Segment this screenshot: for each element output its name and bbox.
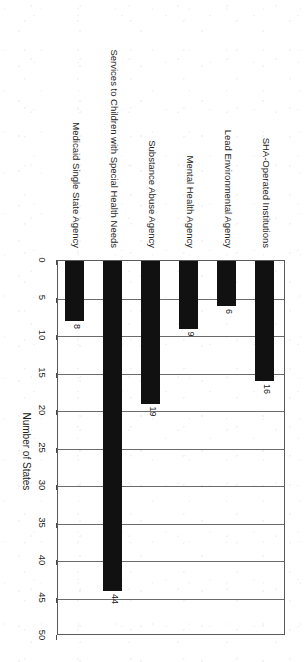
gridline (58, 299, 284, 300)
axis-tick (56, 635, 57, 640)
gridline (58, 599, 284, 600)
axis-tick (56, 485, 57, 490)
axis-tick (56, 260, 57, 265)
bar-chart-figure: 05101520253035404550 Number of States SH… (0, 0, 305, 662)
bar-value-label: 8 (72, 324, 81, 329)
axis-tick (56, 373, 57, 378)
axis-tick (56, 560, 57, 565)
gridline (58, 411, 284, 412)
bar (256, 261, 275, 381)
gridline (58, 561, 284, 562)
tick-label-5: 5 (38, 287, 48, 309)
axis-tick (56, 598, 57, 603)
gridline (58, 336, 284, 337)
category-label: Services to Children with Special Health… (110, 0, 120, 248)
tick-label-30: 30 (38, 474, 48, 496)
plot-area (57, 260, 285, 635)
tick-label-40: 40 (38, 549, 48, 571)
tick-label-50: 50 (38, 624, 48, 646)
bar (66, 261, 85, 321)
tick-label-25: 25 (38, 437, 48, 459)
tick-label-45: 45 (38, 587, 48, 609)
axis-tick (56, 410, 57, 415)
category-label: Mental Health Agency (186, 0, 196, 248)
axis-tick (56, 448, 57, 453)
category-label: Lead Environmental Agency (224, 0, 234, 248)
category-label: Substance Abuse Agency (148, 0, 158, 248)
axis-tick (56, 298, 57, 303)
category-label: SHA-Operated Institutions (262, 0, 272, 248)
tick-label-20: 20 (38, 399, 48, 421)
gridline (58, 449, 284, 450)
gridline (58, 374, 284, 375)
bar-value-label: 16 (262, 384, 271, 394)
bar-value-label: 6 (224, 309, 233, 314)
tick-label-35: 35 (38, 512, 48, 534)
bar (218, 261, 237, 306)
rotated-page-wrapper: 05101520253035404550 Number of States SH… (0, 0, 305, 662)
tick-label-15: 15 (38, 362, 48, 384)
bar-value-label: 44 (110, 594, 119, 604)
axis-tick (56, 523, 57, 528)
value-axis-title: Number of States (21, 413, 31, 491)
tick-label-0: 0 (38, 249, 48, 271)
tick-label-10: 10 (38, 324, 48, 346)
bar-value-label: 9 (186, 332, 195, 337)
bar (180, 261, 199, 329)
axis-tick (56, 335, 57, 340)
gridline (58, 524, 284, 525)
gridline (58, 486, 284, 487)
bar (142, 261, 161, 404)
bar-value-label: 19 (148, 407, 157, 417)
category-label: Medicaid Single State Agency (72, 0, 82, 248)
bar (104, 261, 123, 591)
